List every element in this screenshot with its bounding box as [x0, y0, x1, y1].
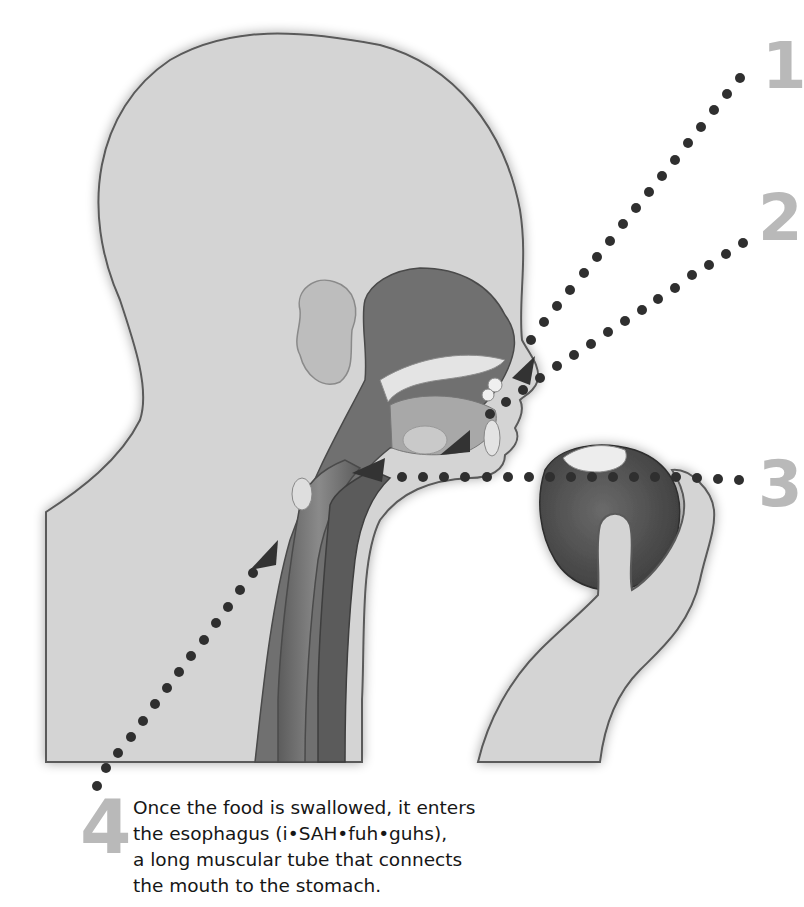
callout-number-4: 4 — [80, 790, 130, 864]
swallowing-diagram: 1 2 3 4 Once the food is swallowed, it e… — [0, 0, 804, 907]
caption-line: Once the food is swallowed, it enters — [133, 795, 513, 821]
callout-number-3: 3 — [758, 452, 801, 516]
leader-line-1 — [526, 73, 745, 345]
salivary-gland — [297, 280, 356, 384]
caption-line: the mouth to the stomach. — [133, 873, 513, 899]
callout-number-2: 2 — [758, 186, 801, 250]
caption-esophagus: Once the food is swallowed, it enters th… — [133, 795, 513, 899]
leader-line-2 — [485, 238, 748, 419]
anatomy-illustration — [0, 0, 804, 907]
hand-with-apple — [478, 445, 714, 762]
callout-number-1: 1 — [762, 34, 804, 98]
caption-line: a long muscular tube that connects — [133, 847, 513, 873]
caption-line: the esophagus (i•SAH•fuh•guhs), — [133, 821, 513, 847]
